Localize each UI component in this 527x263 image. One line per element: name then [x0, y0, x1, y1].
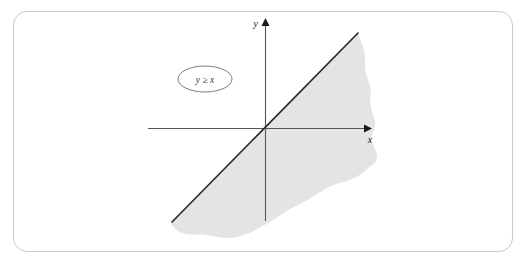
inequality-label: y ≥ x	[195, 75, 215, 85]
y-axis-label: y	[253, 18, 259, 29]
inequality-graph: x y y ≥ x	[0, 0, 527, 263]
y-axis-arrowhead	[262, 18, 270, 26]
shaded-region	[171, 33, 377, 238]
x-axis-label: x	[367, 134, 373, 145]
inequality-annotation: y ≥ x	[178, 66, 232, 92]
